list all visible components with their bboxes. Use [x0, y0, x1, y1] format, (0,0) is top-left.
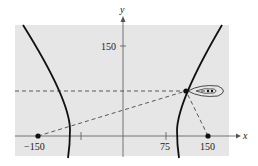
x-tick-label-150: 150 — [200, 141, 215, 152]
x-axis-label: x — [242, 130, 248, 141]
right-focus-point — [205, 133, 210, 138]
x-tick-label-neg150: −150 — [24, 141, 45, 152]
hyperbola-diagram: x y 150 −150 75 150 — [0, 0, 258, 166]
x-tick-label-75: 75 — [160, 141, 170, 152]
x-axis-arrow-icon — [236, 134, 241, 139]
y-axis-arrow-icon — [121, 16, 126, 22]
y-tick-label-150: 150 — [101, 41, 116, 52]
left-focus-point — [35, 133, 40, 138]
y-axis-label: y — [119, 4, 125, 15]
